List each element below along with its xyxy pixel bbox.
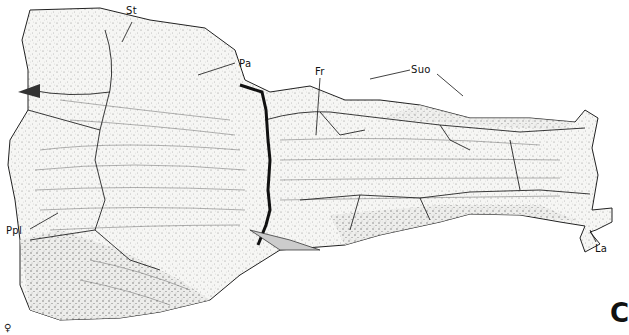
female-symbol: ♀ — [4, 323, 11, 333]
panel-letter: C — [610, 300, 629, 326]
label-fr: Fr — [315, 67, 325, 77]
label-pa: Pa — [239, 59, 251, 69]
skull-roof-figure: St Pa Fr Suo Ppl La C ♀ — [0, 0, 629, 335]
label-suo: Suo — [411, 65, 431, 75]
specimen-drawing — [0, 0, 629, 335]
label-ppl: Ppl — [6, 226, 22, 236]
label-la: La — [595, 244, 607, 254]
label-st: St — [126, 6, 137, 16]
